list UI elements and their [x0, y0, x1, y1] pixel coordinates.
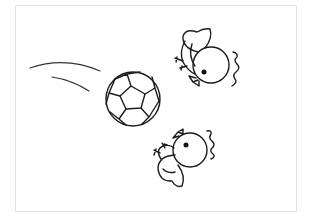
motion-lines [30, 63, 100, 91]
chick-bottom-wing [158, 155, 183, 186]
motion-line-2 [52, 77, 89, 91]
soccer-ball [106, 72, 160, 126]
chick-top-eye [202, 70, 207, 75]
chick-top-head [193, 47, 229, 83]
illustration-canvas [0, 0, 309, 224]
chick-top [175, 29, 239, 86]
chick-top-wing [183, 29, 211, 52]
chick-bottom-feet [154, 143, 167, 155]
chick-bottom-sound-marks [207, 131, 214, 159]
chick-bottom [154, 129, 214, 186]
chick-top-sound-marks [232, 52, 239, 86]
motion-line-1 [30, 63, 100, 71]
chick-bottom-beak [173, 129, 183, 138]
chick-bottom-eye [184, 143, 189, 148]
chick-bottom-head [173, 133, 207, 167]
chick-top-feet [175, 57, 187, 70]
